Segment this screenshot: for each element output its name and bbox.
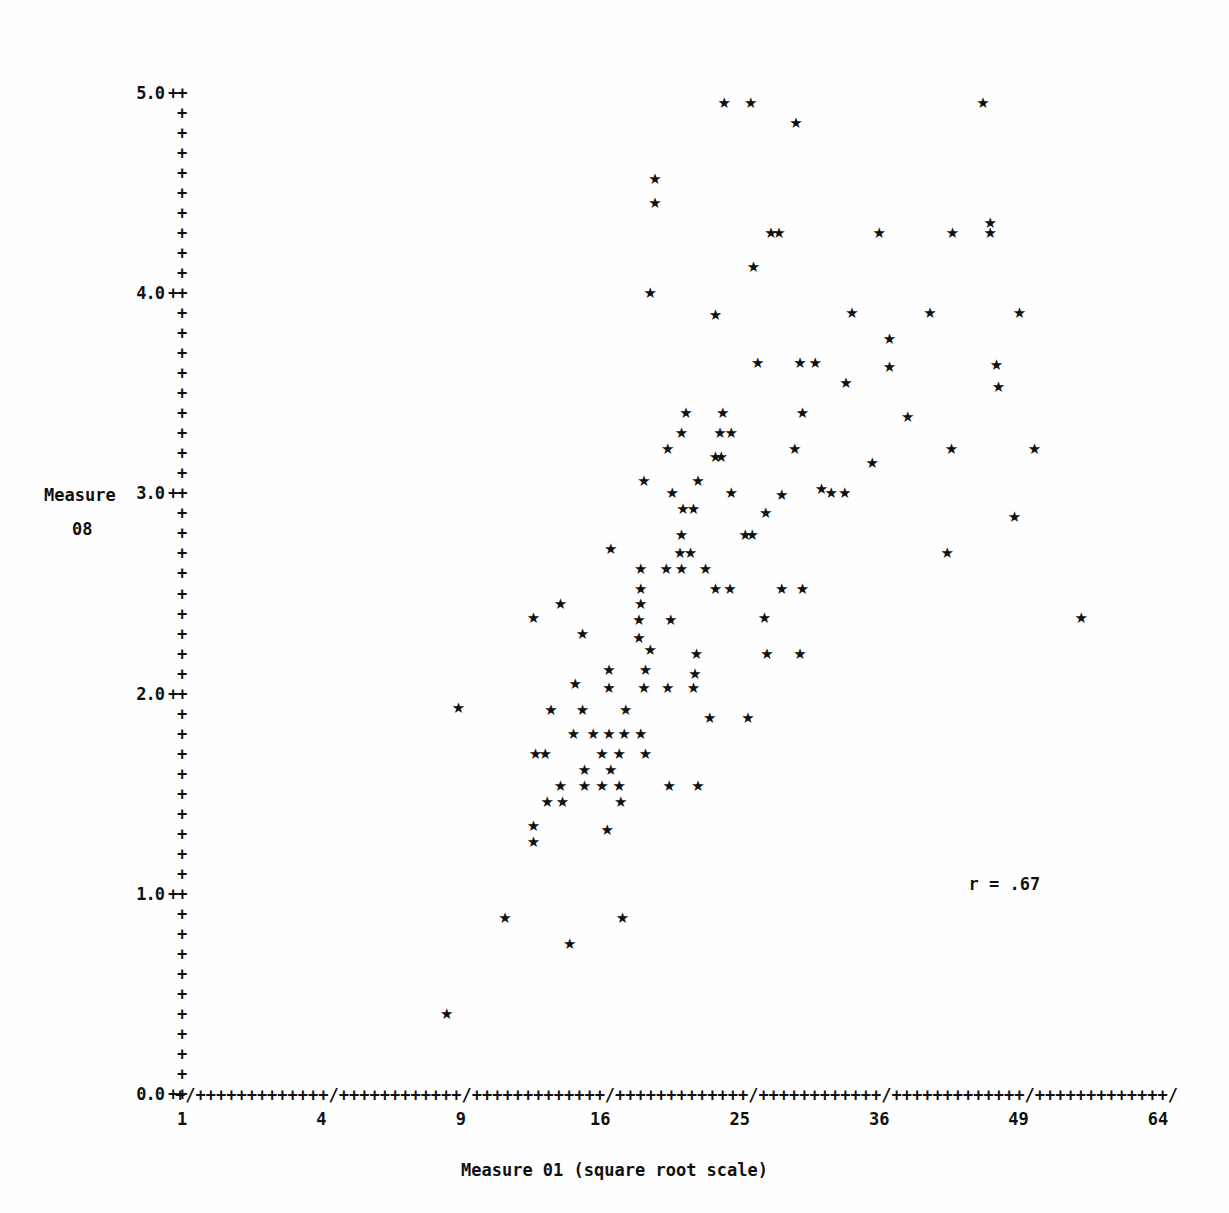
data-point-marker: ★ [715,405,731,421]
data-point-marker: ★ [611,778,627,794]
data-point-marker: ★ [838,375,854,391]
correlation-annotation: r = .67 [969,874,1041,894]
data-point-marker: ★ [543,702,559,718]
data-point-marker: ★ [636,680,652,696]
data-point-marker: ★ [713,449,729,465]
data-point-marker: ★ [576,778,592,794]
data-point-marker: ★ [871,225,887,241]
data-point-marker: ★ [613,794,629,810]
data-point-marker: ★ [787,441,803,457]
data-point-marker: ★ [615,910,631,926]
data-point-marker: ★ [900,409,916,425]
data-point-marker: ★ [603,762,619,778]
data-point-marker: ★ [633,726,649,742]
data-point-marker: ★ [882,359,898,375]
scatter-plot-page: Measure 08 5.0+++++++++++4.0+++++++++++3… [0,0,1229,1213]
data-point-marker: ★ [792,355,808,371]
data-point-marker: ★ [990,379,1006,395]
data-point-marker: ★ [746,259,762,275]
data-point-marker: ★ [788,115,804,131]
data-point-marker: ★ [722,581,738,597]
data-point-marker: ★ [697,561,713,577]
data-point-marker: ★ [674,425,690,441]
data-point-marker: ★ [567,676,583,692]
data-point-marker: ★ [553,596,569,612]
data-point-marker: ★ [633,561,649,577]
data-point-marker: ★ [451,700,467,716]
data-point-marker: ★ [939,545,955,561]
data-point-marker: ★ [759,646,775,662]
data-point-marker: ★ [439,1006,455,1022]
data-point-marker: ★ [975,95,991,111]
data-point-marker: ★ [575,702,591,718]
data-point-marker: ★ [702,710,718,726]
data-point-marker: ★ [638,746,654,762]
data-point-marker: ★ [674,561,690,577]
data-point-marker: ★ [945,225,961,241]
data-point-marker: ★ [575,626,591,642]
data-point-marker: ★ [616,726,632,742]
data-point-marker: ★ [585,726,601,742]
data-point-marker: ★ [758,505,774,521]
data-point-marker: ★ [1012,305,1028,321]
data-point-marker: ★ [1073,610,1089,626]
data-point-marker: ★ [660,441,676,457]
data-point-marker: ★ [594,746,610,762]
data-point-marker: ★ [864,455,880,471]
data-point-marker: ★ [611,746,627,762]
data-point-marker: ★ [922,305,938,321]
data-point-marker: ★ [837,485,853,501]
x-axis-title: Measure 01 (square root scale) [0,1160,1229,1180]
data-point-marker: ★ [638,662,654,678]
data-point-marker: ★ [740,710,756,726]
data-point-marker: ★ [689,646,705,662]
data-point-marker: ★ [774,581,790,597]
data-point-marker: ★ [774,487,790,503]
data-point-marker: ★ [723,425,739,441]
data-point-marker: ★ [658,561,674,577]
data-point-marker: ★ [988,357,1004,373]
data-point-marker: ★ [716,95,732,111]
data-point-marker: ★ [750,355,766,371]
data-point-marker: ★ [661,778,677,794]
data-point-marker: ★ [743,95,759,111]
data-point-marker: ★ [601,726,617,742]
data-point-marker: ★ [642,285,658,301]
data-point-marker: ★ [660,680,676,696]
data-point-marker: ★ [982,225,998,241]
data-point-marker: ★ [690,473,706,489]
data-point-marker: ★ [636,473,652,489]
data-point-marker: ★ [594,778,610,794]
data-point-marker: ★ [576,762,592,778]
data-point-marker: ★ [771,225,787,241]
data-point-marker: ★ [647,171,663,187]
data-point-marker: ★ [882,331,898,347]
data-point-marker: ★ [526,834,542,850]
data-point-marker: ★ [1026,441,1042,457]
data-point-marker: ★ [603,541,619,557]
data-point-marker: ★ [601,662,617,678]
data-point-marker: ★ [663,612,679,628]
data-point-marker: ★ [792,646,808,662]
data-point-marker: ★ [1007,509,1023,525]
plot-area: ★★★★★★★★★★★★★★★★★★★★★★★★★★★★★★★★★★★★★★★★… [0,0,1229,1213]
data-point-marker: ★ [631,612,647,628]
data-point-marker: ★ [690,778,706,794]
data-point-marker: ★ [794,405,810,421]
data-point-marker: ★ [526,610,542,626]
data-point-marker: ★ [686,501,702,517]
data-point-marker: ★ [664,485,680,501]
data-point-marker: ★ [553,778,569,794]
data-point-marker: ★ [599,822,615,838]
data-point-marker: ★ [678,405,694,421]
data-point-marker: ★ [708,307,724,323]
data-point-marker: ★ [944,441,960,457]
data-point-marker: ★ [565,726,581,742]
data-point-marker: ★ [686,680,702,696]
data-point-marker: ★ [497,910,513,926]
data-point-marker: ★ [807,355,823,371]
data-point-marker: ★ [633,596,649,612]
data-point-marker: ★ [794,581,810,597]
data-point-marker: ★ [537,746,553,762]
data-point-marker: ★ [554,794,570,810]
